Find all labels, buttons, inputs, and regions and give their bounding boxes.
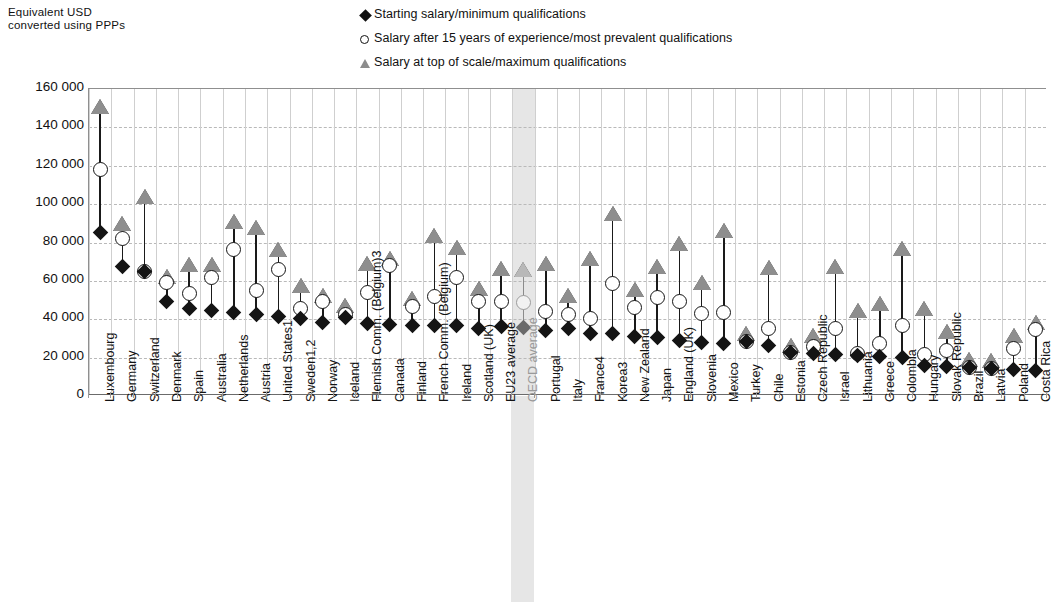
data-point-starting-salary	[605, 326, 621, 342]
gridline-vertical	[735, 89, 736, 394]
plot-area	[88, 88, 1046, 395]
gridline-vertical	[579, 89, 580, 394]
x-axis-tick	[467, 392, 468, 398]
x-axis-tick	[823, 392, 824, 398]
gridline-vertical	[601, 89, 602, 394]
data-point-after-15-years	[382, 258, 397, 273]
y-axis-tick-label: 120 000	[2, 156, 84, 171]
gridline-vertical	[423, 89, 424, 394]
legend-label: Starting salary/minimum qualifications	[374, 6, 586, 22]
data-point-after-15-years	[93, 162, 108, 177]
legend-label: Salary after 15 years of experience/most…	[374, 30, 732, 46]
x-axis-tick	[88, 392, 89, 398]
x-axis-tick	[578, 392, 579, 398]
data-point-top-of-scale	[537, 256, 555, 271]
x-axis-tick	[1046, 392, 1047, 398]
data-point-top-of-scale	[113, 216, 131, 231]
gridline-vertical	[624, 89, 625, 394]
y-axis-tick-label: 80 000	[2, 233, 84, 248]
y-axis-tick-label: 100 000	[2, 194, 84, 209]
data-point-top-of-scale	[425, 228, 443, 243]
x-axis-tick	[868, 392, 869, 398]
data-point-starting-salary	[115, 259, 131, 275]
gridline-vertical	[89, 89, 90, 394]
data-point-starting-salary	[92, 225, 108, 241]
y-axis-tick-label: 160 000	[2, 79, 84, 94]
x-axis-tick-label: Scotland (UK)	[483, 324, 496, 402]
x-axis-tick-label: OECD average	[527, 317, 540, 402]
x-axis-tick	[311, 392, 312, 398]
data-point-after-15-years	[494, 294, 509, 309]
x-axis-tick	[690, 392, 691, 398]
data-point-starting-salary	[716, 335, 732, 351]
data-point-after-15-years	[271, 262, 286, 277]
x-axis-tick	[199, 392, 200, 398]
x-axis-tick	[422, 392, 423, 398]
gridline-vertical	[401, 89, 402, 394]
x-axis-tick	[600, 392, 601, 398]
x-axis-tick	[110, 392, 111, 398]
connector-line	[656, 274, 658, 337]
data-point-after-15-years	[538, 304, 553, 319]
x-axis-tick	[177, 392, 178, 398]
gridline-vertical	[1002, 89, 1003, 394]
data-point-after-15-years	[583, 311, 598, 326]
data-point-starting-salary	[560, 321, 576, 337]
gridline-vertical	[757, 89, 758, 394]
data-point-after-15-years	[650, 290, 665, 305]
y-axis-tick-label: 140 000	[2, 117, 84, 132]
x-axis-tick	[289, 392, 290, 398]
data-point-after-15-years	[761, 321, 776, 336]
data-point-top-of-scale	[492, 261, 510, 276]
x-axis-tick-label: United States1	[282, 320, 295, 402]
legend-item-salary-after-15-years: Salary after 15 years of experience/most…	[358, 30, 998, 54]
data-point-top-of-scale	[670, 236, 688, 251]
gridline-vertical	[980, 89, 981, 394]
x-axis-tick	[222, 392, 223, 398]
gridline-horizontal	[89, 204, 1046, 205]
x-axis-tick-label: EU23 average	[505, 322, 518, 402]
x-axis-tick	[957, 392, 958, 398]
data-point-top-of-scale	[581, 251, 599, 266]
x-axis-tick	[845, 392, 846, 398]
gridline-vertical	[267, 89, 268, 394]
gridline-vertical	[713, 89, 714, 394]
chart-legend: Starting salary/minimum qualifications S…	[358, 6, 998, 78]
x-axis-tick	[734, 392, 735, 398]
connector-line	[723, 238, 725, 344]
data-point-after-15-years	[226, 242, 241, 257]
data-point-after-15-years	[672, 294, 687, 309]
connector-line	[901, 256, 903, 358]
data-point-top-of-scale	[448, 240, 466, 255]
data-point-top-of-scale	[648, 259, 666, 274]
gridline-horizontal	[89, 166, 1046, 167]
gridline-vertical	[356, 89, 357, 394]
gridline-vertical	[668, 89, 669, 394]
data-point-after-15-years	[895, 318, 910, 333]
gridline-horizontal	[89, 127, 1046, 128]
data-point-top-of-scale	[180, 257, 198, 272]
x-axis-tick	[801, 392, 802, 398]
data-point-after-15-years	[1028, 322, 1043, 337]
gridline-vertical	[557, 89, 558, 394]
data-point-after-15-years	[449, 270, 464, 285]
data-point-starting-salary	[538, 323, 554, 339]
data-point-starting-salary	[761, 337, 777, 353]
x-axis-tick	[556, 392, 557, 398]
x-axis-tick	[779, 392, 780, 398]
x-axis-tick	[890, 392, 891, 398]
connector-line	[456, 255, 458, 326]
x-axis-tick	[712, 392, 713, 398]
data-point-top-of-scale	[760, 260, 778, 275]
x-axis-tick-label: New Zealand	[639, 328, 652, 402]
x-axis-tick	[378, 392, 379, 398]
data-point-starting-salary	[694, 334, 710, 350]
data-point-after-15-years	[605, 276, 620, 291]
y-axis-tick-label: 60 000	[2, 271, 84, 286]
data-point-top-of-scale	[893, 241, 911, 256]
data-point-top-of-scale	[269, 242, 287, 257]
data-point-top-of-scale	[693, 275, 711, 290]
triangle-marker-icon	[358, 55, 374, 71]
y-axis-tick-label: 40 000	[2, 309, 84, 324]
